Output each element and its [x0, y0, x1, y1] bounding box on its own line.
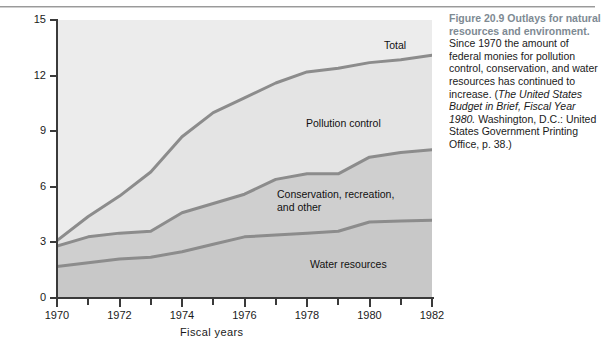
plot-area [57, 20, 432, 298]
caption-body: Since 1970 the amount of federal monies … [449, 37, 598, 150]
x-tick-label: 1982 [412, 309, 452, 321]
x-tick [369, 298, 371, 307]
series-label-total: Total [384, 39, 406, 52]
x-tick [337, 298, 339, 305]
x-tick-label: 1970 [37, 309, 77, 321]
y-tick-label: 12 [8, 70, 46, 81]
x-tick-label: 1974 [162, 309, 202, 321]
y-tick-label: 0 [8, 292, 46, 303]
x-tick [275, 298, 277, 305]
y-tick-label: 15 [8, 14, 46, 25]
area-chart-svg [57, 20, 432, 298]
y-axis-line [56, 19, 58, 299]
y-tick-label: 6 [8, 181, 46, 192]
y-tick-label: 9 [8, 125, 46, 136]
x-tick [150, 298, 152, 305]
chart-figure: 03691215 1970197219741976197819801982 $ … [0, 0, 445, 344]
x-tick [431, 298, 433, 307]
series-label-water-resources: Water resources [310, 258, 387, 271]
y-tick [50, 75, 57, 77]
y-tick-label: 3 [8, 236, 46, 247]
x-tick-label: 1976 [225, 309, 265, 321]
x-tick-label: 1978 [287, 309, 327, 321]
x-axis-title: Fiscal years [180, 326, 243, 338]
x-tick [212, 298, 214, 305]
y-tick [50, 186, 57, 188]
x-tick [181, 298, 183, 307]
x-tick [306, 298, 308, 307]
x-tick-label: 1972 [100, 309, 140, 321]
figure-caption: Figure 20.9 Outlays for natural resource… [449, 12, 601, 192]
x-tick [119, 298, 121, 307]
series-label-conservation: Conservation, recreation, and other [277, 188, 394, 214]
series-label-pollution-control: Pollution control [306, 117, 381, 130]
x-tick [87, 298, 89, 305]
y-tick [50, 130, 57, 132]
y-tick [50, 241, 57, 243]
x-tick [56, 298, 58, 307]
x-tick [244, 298, 246, 307]
y-tick [50, 19, 57, 21]
x-tick-label: 1980 [350, 309, 390, 321]
caption-heading: Figure 20.9 Outlays for natural resource… [449, 12, 601, 37]
x-tick [400, 298, 402, 305]
